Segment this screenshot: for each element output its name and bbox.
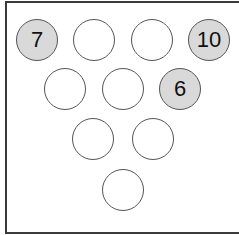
pin-4-empty (44, 68, 86, 110)
pin-1-empty (102, 169, 144, 211)
pin-3-empty (132, 118, 174, 160)
pin-7: 7 (16, 19, 58, 61)
pin-label: 7 (31, 27, 43, 53)
pin-label: 6 (174, 76, 186, 102)
pin-10: 10 (188, 19, 230, 61)
pin-label: 10 (197, 27, 221, 53)
pin-9-empty (131, 19, 173, 61)
pin-5-empty (102, 68, 144, 110)
pin-8-empty (73, 19, 115, 61)
pin-2-empty (72, 118, 114, 160)
pin-6: 6 (159, 68, 201, 110)
